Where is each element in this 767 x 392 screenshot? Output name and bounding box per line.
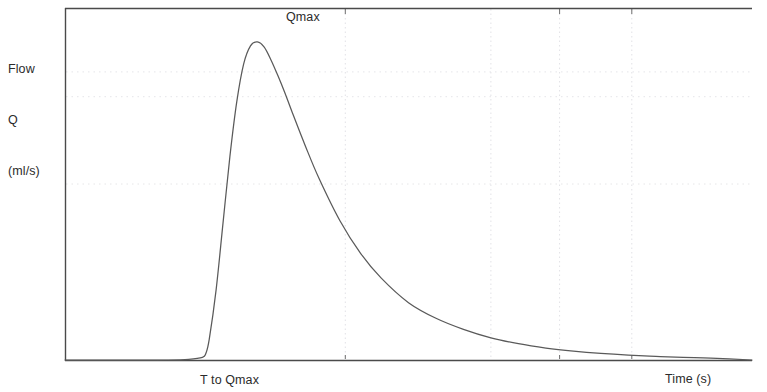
uroflowmetry-chart-page: Flow Q (ml/s) Qmax T to Qmax Time (s) [0,0,767,392]
horizontal-gridlines [66,72,750,184]
flow-rate-curve [65,42,752,360]
flow-curve-plot [0,0,767,392]
